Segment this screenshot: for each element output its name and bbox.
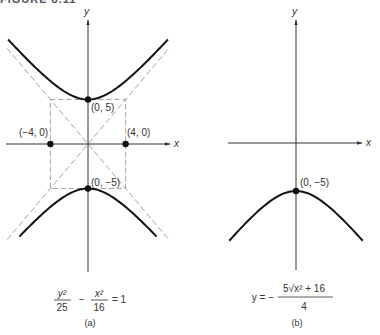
eq-a-rhs: = 1: [112, 294, 127, 305]
eq-a-num2: x²: [94, 288, 104, 299]
x-axis-label-a: x: [173, 138, 180, 149]
point-label-4-0: (4, 0): [127, 127, 150, 138]
point-marker-a-3: [122, 141, 128, 147]
eq-b-numerator: 5√x² + 16: [283, 283, 325, 294]
eq-a-num1: y²: [57, 288, 67, 299]
eq-b-denominator: 4: [301, 301, 307, 312]
panel-b: x y (0, −5) y = − 5√x² + 16 4 (b): [228, 6, 372, 328]
eq-b-lhs: y = −: [252, 292, 274, 303]
eq-a-den1: 25: [56, 302, 68, 313]
equation-a: y² 25 − x² 16 = 1: [54, 288, 127, 313]
eq-a-minus: −: [79, 294, 85, 305]
caption-b: (b): [292, 318, 303, 328]
y-axis-label-a: y: [83, 6, 90, 17]
point-label-0-5: (0, 5): [91, 102, 114, 113]
eq-a-den2: 16: [93, 302, 105, 313]
figure-canvas: x y (0, 5) (0, −5) (−4, 0) (4, 0) y² 25 …: [0, 0, 380, 335]
equation-b: y = − 5√x² + 16 4: [252, 283, 333, 312]
point-label-neg4-0: (−4, 0): [19, 127, 48, 138]
point-label-b-0-neg5: (0, −5): [300, 177, 329, 188]
panel-a: x y (0, 5) (0, −5) (−4, 0) (4, 0) y² 25 …: [6, 6, 180, 328]
x-axis-label-b: x: [365, 137, 372, 148]
point-marker-b-0: [293, 188, 299, 194]
point-marker-a-2: [47, 141, 53, 147]
y-axis-label-b: y: [291, 6, 298, 17]
point-label-0-neg5: (0, −5): [91, 177, 120, 188]
caption-a: (a): [85, 318, 96, 328]
